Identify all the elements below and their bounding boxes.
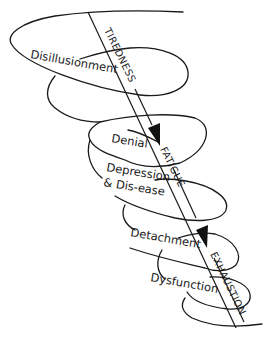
stage-label-detachment: Detachment xyxy=(129,225,202,251)
burnout-spiral-diagram: TIREDNESS FATIGUE EXHAUSTION Disillusion… xyxy=(0,0,271,338)
stage-label-denial: Denial xyxy=(111,131,149,151)
shaft-right-line-segment-1 xyxy=(135,89,152,125)
stage-label-dysfunction: Dysfunction xyxy=(149,270,219,296)
axis-label-tiredness: TIREDNESS xyxy=(102,25,138,84)
